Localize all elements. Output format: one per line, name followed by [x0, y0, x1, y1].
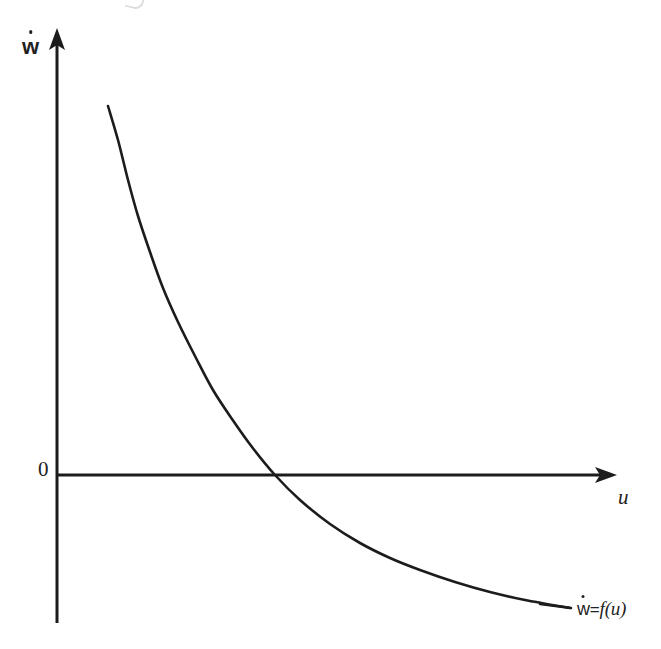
y-axis-label: w: [22, 36, 39, 58]
origin-label: 0: [38, 459, 49, 480]
plot-area: [0, 0, 661, 649]
y-axis-label-text: w: [22, 36, 39, 58]
curve-label-close-paren: ): [620, 598, 626, 619]
curve-label-lhs: w: [577, 600, 590, 618]
w-dot-accent-icon-2: [582, 595, 585, 598]
curve-label-argument: u: [611, 598, 620, 619]
curve-label-equals: =: [590, 600, 600, 619]
function-curve: [108, 106, 570, 608]
figure-canvas: w 0 u w =f(u): [0, 0, 661, 649]
w-dot-accent-icon: [29, 30, 33, 34]
x-axis-label: u: [618, 487, 629, 508]
curve-equation-label: w =f(u): [577, 599, 626, 618]
